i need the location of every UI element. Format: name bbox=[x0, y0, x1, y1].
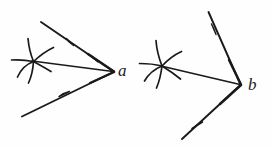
starburst-b-ray-2 bbox=[162, 52, 182, 67]
figure-a-upper-arrow-1 bbox=[67, 39, 74, 46]
starburst-a-ray-4 bbox=[29, 62, 34, 84]
figure-a-lower-ray-taper bbox=[90, 72, 114, 83]
starburst-a-ray-5 bbox=[12, 60, 34, 62]
starburst-b-ray-5 bbox=[140, 64, 163, 67]
starburst-a-ray-2 bbox=[34, 48, 54, 62]
line-art-svg bbox=[0, 0, 271, 147]
starburst-a-ray-1 bbox=[28, 39, 34, 62]
starburst-mark-a bbox=[12, 39, 54, 84]
starburst-b-ray-1 bbox=[156, 41, 162, 67]
figure-canvas: a b bbox=[0, 0, 271, 147]
vertex-label-a: a bbox=[118, 62, 127, 79]
figure-b-upper-ray-taper bbox=[229, 60, 241, 85]
figure-a-group bbox=[12, 22, 115, 117]
figure-b-group bbox=[140, 12, 242, 139]
vertex-label-b: b bbox=[248, 76, 257, 93]
starburst-mark-b bbox=[140, 41, 182, 89]
figure-b-lower-ray-taper bbox=[220, 85, 241, 104]
figure-b-middle-ray bbox=[161, 66, 240, 85]
starburst-b-ray-4 bbox=[157, 66, 163, 88]
figure-b-lower-arrow-1 bbox=[192, 122, 203, 129]
